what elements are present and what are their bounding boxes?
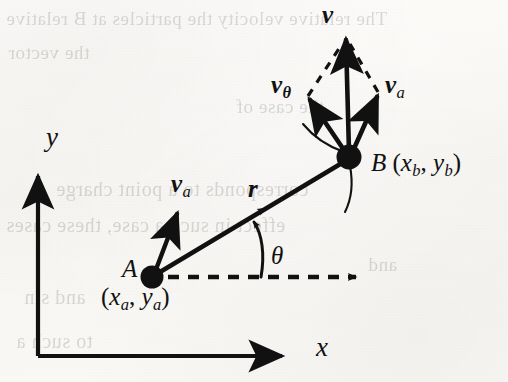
x-axis-label-text: x bbox=[316, 332, 328, 362]
vector-v-at-b-shaft bbox=[346, 40, 349, 152]
coord-ya-base: y bbox=[142, 283, 153, 310]
theta-angle-label: θ bbox=[271, 243, 283, 268]
coord-ya-sub: a bbox=[153, 295, 162, 314]
va-at-a-base: v bbox=[171, 170, 182, 197]
theta-symbol: θ bbox=[271, 242, 283, 269]
vector-r-label-text: r bbox=[248, 175, 258, 202]
parallelogram-dashed-lines bbox=[308, 44, 378, 96]
va-at-a-sub: a bbox=[182, 182, 191, 201]
coord-yb-base: y bbox=[433, 149, 444, 176]
vector-va-at-a-label: va bbox=[171, 171, 191, 200]
paren-open: ( bbox=[393, 149, 401, 176]
vector-v-at-b-label: v bbox=[322, 2, 333, 27]
x-axis-label: x bbox=[316, 334, 328, 361]
vector-vtheta-at-b-label: vθ bbox=[271, 72, 291, 101]
coord-xa-base: x bbox=[109, 283, 120, 310]
figure-canvas: The relative velocity the particles at B… bbox=[0, 0, 508, 382]
point-a-label-text: A bbox=[122, 255, 137, 282]
va-at-b-sub: a bbox=[396, 83, 405, 102]
coord-separator: , bbox=[421, 149, 434, 176]
coord-separator: , bbox=[129, 283, 142, 310]
coord-xa-sub: a bbox=[120, 295, 129, 314]
point-b-dot bbox=[337, 145, 362, 170]
paren-close: ) bbox=[453, 149, 461, 176]
point-a-coordinates: (xa, ya) bbox=[101, 284, 170, 313]
vector-r-label: r bbox=[248, 176, 258, 201]
dash-vtheta-to-v bbox=[308, 44, 342, 96]
coord-xb-base: x bbox=[401, 149, 412, 176]
coord-yb-sub: b bbox=[444, 161, 453, 180]
point-b-label: B (xb, yb) bbox=[371, 150, 461, 179]
vectors-at-b bbox=[310, 40, 377, 153]
dash-va-to-v bbox=[350, 44, 378, 92]
paren-close: ) bbox=[161, 283, 169, 310]
point-b-label-text: B bbox=[371, 149, 386, 176]
theta-arc-path bbox=[254, 222, 263, 277]
coord-xb-sub: b bbox=[412, 161, 421, 180]
va-at-b-base: v bbox=[385, 71, 396, 98]
point-a-label: A bbox=[122, 256, 137, 281]
y-axis-label: y bbox=[46, 124, 58, 151]
theta-angle-arc bbox=[254, 222, 263, 277]
vector-va-at-b-label: va bbox=[385, 72, 405, 101]
vtheta-base: v bbox=[271, 71, 282, 98]
y-axis-label-text: y bbox=[46, 122, 58, 152]
v-at-b-base: v bbox=[322, 1, 333, 28]
vtheta-sub: θ bbox=[282, 83, 291, 102]
coordinate-axes bbox=[38, 176, 282, 356]
arc-at-b-lower-right bbox=[345, 166, 352, 212]
vector-va-at-b-shaft bbox=[352, 97, 377, 153]
